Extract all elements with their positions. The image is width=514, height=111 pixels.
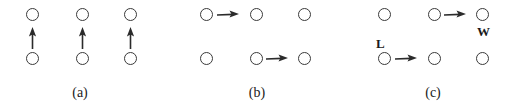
panel-caption-c: (c) (425, 86, 441, 100)
arrow-b-bottom-right-icon (266, 53, 292, 65)
label-l: L (376, 37, 385, 50)
node-c-r1c1 (428, 52, 441, 65)
label-w: W (477, 25, 490, 38)
node-b-r0c1 (250, 8, 263, 21)
node-a-r1c2 (124, 52, 137, 65)
node-c-r0c0 (378, 8, 391, 21)
node-b-r1c2 (298, 52, 311, 65)
node-c-r0c1 (428, 8, 441, 21)
arrow-c-top-right-icon (444, 9, 470, 21)
node-b-r0c2 (298, 8, 311, 21)
node-c-r1c2 (476, 52, 489, 65)
node-a-r1c0 (26, 52, 39, 65)
node-b-r0c0 (200, 8, 213, 21)
arrow-a-col0-up-icon (26, 27, 38, 49)
node-a-r0c1 (76, 8, 89, 21)
node-b-r1c1 (250, 52, 263, 65)
figure-container: (a) (b) (0, 0, 514, 111)
node-a-r1c1 (76, 52, 89, 65)
node-b-r1c0 (200, 52, 213, 65)
node-c-r1c0 (378, 52, 391, 65)
arrow-b-top-right-icon (217, 9, 243, 21)
node-a-r0c0 (26, 8, 39, 21)
arrow-a-col2-up-icon (124, 27, 136, 49)
node-a-r0c2 (124, 8, 137, 21)
arrow-c-bottom-right-icon (395, 53, 421, 65)
panel-caption-a: (a) (72, 86, 88, 100)
arrow-a-col1-up-icon (76, 27, 88, 49)
node-c-r0c2 (476, 8, 489, 21)
panel-caption-b: (b) (249, 86, 265, 100)
